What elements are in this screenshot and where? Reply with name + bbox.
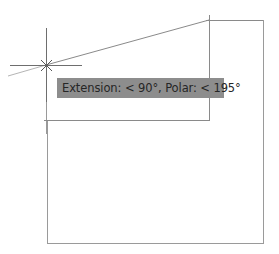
drawing-canvas[interactable] [0,0,279,254]
rubber-band-line [46,20,209,65]
tracking-tooltip-text: Extension: < 90°, Polar: < 195° [62,81,241,95]
tracking-tooltip: Extension: < 90°, Polar: < 195° [57,78,224,98]
polar-tracking-line [8,65,46,76]
